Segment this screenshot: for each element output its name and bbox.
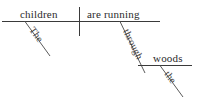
word-object-article: the — [162, 69, 179, 86]
word-subject-article: The — [27, 25, 46, 45]
sentence-diagram: children are running The through woods t… — [0, 0, 198, 99]
diagram-canvas: children are running The through woods t… — [0, 0, 198, 99]
word-prepositional-object: woods — [153, 52, 183, 64]
word-subject: children — [20, 8, 58, 20]
word-predicate: are running — [87, 8, 140, 20]
word-preposition: through — [121, 27, 145, 61]
